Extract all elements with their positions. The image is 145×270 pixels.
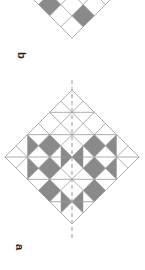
shaded-square <box>83 179 105 201</box>
shaded-triangle <box>106 135 117 157</box>
panel-b-grid <box>27 0 116 38</box>
shaded-triangle <box>27 157 38 179</box>
panel-label-a: a <box>14 244 26 251</box>
shaded-square <box>39 157 61 179</box>
shaded-square <box>39 179 61 201</box>
panel-b <box>27 0 116 38</box>
shaded-square <box>83 157 105 179</box>
shaded-square <box>39 135 61 157</box>
panel-label-b: b <box>16 52 28 59</box>
shaded-triangle <box>106 157 117 179</box>
shaded-triangle <box>27 135 38 157</box>
grid-line <box>61 0 106 5</box>
panel-a <box>5 80 139 238</box>
figure: b a <box>0 0 145 270</box>
shaded-square <box>72 5 94 27</box>
shaded-square <box>83 135 105 157</box>
